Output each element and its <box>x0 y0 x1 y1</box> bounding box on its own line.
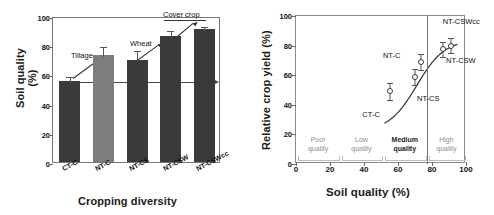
zone-label-poor: Poorquality <box>308 136 328 153</box>
point-label-nt-c: NT-C <box>383 51 401 60</box>
error-bar-cap <box>100 47 107 48</box>
annotation-cover-crop-arrowhead <box>193 20 199 26</box>
left-y-tick-label: 80 <box>42 43 50 52</box>
data-point-nt-cswcc <box>448 43 454 49</box>
left-y-tick-mark <box>50 76 53 77</box>
left-y-axis-title-line1: Soil quality <box>14 48 26 108</box>
right-y-tick-mark <box>292 46 296 47</box>
right-y-tick-label: 100 <box>279 12 292 21</box>
right-x-tick-label: 40 <box>360 165 369 174</box>
right-y-tick-label: 60 <box>284 71 292 80</box>
zone-bracket <box>429 156 466 161</box>
error-bar-nt-c <box>103 47 104 56</box>
zone-label-low: Lowquality <box>351 136 371 153</box>
data-point-nt-csw <box>440 46 446 52</box>
left-y-axis-title: Soil quality (%) <box>14 48 38 108</box>
right-y-tick-mark <box>292 16 296 17</box>
right-y-tick-mark <box>292 105 296 106</box>
right-y-tick-label: 40 <box>284 100 292 109</box>
zone-label-line1: Low <box>355 136 368 143</box>
annotation-tillage: Tillage <box>71 51 93 60</box>
left-y-tick-mark <box>50 18 53 19</box>
right-x-tick-label: 20 <box>326 165 335 174</box>
panel-bar-chart: Soil quality (%) 2004 2014 Tillage Wheat… <box>0 0 247 215</box>
right-plot-area: 020406080100020406080100PoorqualityLowqu… <box>295 15 465 163</box>
right-x-axis-title: Soil quality (%) <box>326 186 410 198</box>
right-y-tick-label: 20 <box>284 130 292 139</box>
zone-label-line1: Poor <box>311 136 326 143</box>
panel-scatter-chart: Relative crop yield (%) 0204060801000204… <box>247 0 494 215</box>
data-point-nt-c <box>418 59 424 65</box>
point-label-ct-c: CT-C <box>362 110 380 119</box>
left-y-tick-label: 20 <box>42 130 50 139</box>
right-y-tick-mark <box>292 75 296 76</box>
right-x-tick-label: 60 <box>394 165 403 174</box>
point-error-cap <box>412 85 418 86</box>
point-error-cap <box>448 38 454 39</box>
right-x-tick-label: 0 <box>294 165 298 174</box>
bar-nt-csw <box>160 36 181 162</box>
zone-label-line2: quality <box>308 145 328 152</box>
zone-label-high: Highquality <box>436 136 456 153</box>
annotation-cover-crop-underline <box>164 20 206 21</box>
zone-label-line1: Medium <box>392 136 418 143</box>
error-bar-nt-cs <box>137 51 138 62</box>
zone-bracket <box>342 156 383 161</box>
data-point-nt-cs <box>412 74 418 80</box>
zone-label-medium: Mediumquality <box>392 136 418 153</box>
left-y-tick-label: 60 <box>42 72 50 81</box>
right-x-tick-mark <box>330 162 331 166</box>
figure-two-panel-chart: Soil quality (%) 2004 2014 Tillage Wheat… <box>0 0 494 215</box>
zone-label-line2: quality <box>436 145 456 152</box>
right-x-tick-mark <box>296 162 297 166</box>
point-label-nt-csw: NT-CSW <box>446 56 476 65</box>
error-bar-cap <box>167 31 174 32</box>
left-y-tick-label: 100 <box>37 14 50 23</box>
bar-nt-cswcc <box>194 29 215 162</box>
bar-ct-c <box>59 81 80 162</box>
point-error-cap <box>418 54 424 55</box>
error-bar-cap <box>134 51 141 52</box>
right-y-tick-label: 80 <box>284 41 292 50</box>
zone-bracket <box>298 156 340 161</box>
zone-label-line2: quality <box>394 145 417 152</box>
data-point-ct-c <box>387 88 393 94</box>
right-x-tick-label: 80 <box>428 165 437 174</box>
left-y-tick-mark <box>50 135 53 136</box>
zone-divider-high-quality <box>427 16 428 164</box>
point-label-nt-cswcc: NT-CSWcc <box>443 17 480 26</box>
point-error-cap <box>418 70 424 71</box>
right-x-tick-mark <box>466 162 467 166</box>
right-x-tick-mark <box>364 162 365 166</box>
point-label-nt-cs: NT-CS <box>417 94 440 103</box>
left-x-axis-title: Cropping diversity <box>78 195 177 207</box>
right-y-tick-mark <box>292 134 296 135</box>
point-error-cap <box>387 83 393 84</box>
point-error-cap <box>440 42 446 43</box>
zone-label-line2: quality <box>351 145 371 152</box>
error-bar-cap <box>66 77 73 78</box>
left-y-tick-label: 40 <box>42 101 50 110</box>
right-x-tick-mark <box>398 162 399 166</box>
right-y-axis-title: Relative crop yield (%) <box>260 30 272 150</box>
right-x-tick-mark <box>432 162 433 166</box>
zone-bracket <box>385 156 427 161</box>
bar-nt-c <box>93 55 114 162</box>
bar-nt-cs <box>127 60 148 162</box>
left-y-tick-mark <box>50 47 53 48</box>
zone-label-line1: High <box>439 136 453 143</box>
left-y-axis-title-line2: (%) <box>26 48 38 108</box>
point-error-cap <box>448 53 454 54</box>
annotation-wheat: Wheat <box>130 39 152 48</box>
left-y-tick-mark <box>50 106 53 107</box>
left-y-tick-mark <box>50 164 53 165</box>
left-plot-area: 2004 2014 Tillage Wheat Cover crop 02040… <box>52 17 220 163</box>
error-bar-cap <box>201 27 208 28</box>
annotation-cover-crop: Cover crop <box>163 10 200 19</box>
right-x-tick-label: 100 <box>459 165 472 174</box>
point-error-cap <box>387 100 393 101</box>
